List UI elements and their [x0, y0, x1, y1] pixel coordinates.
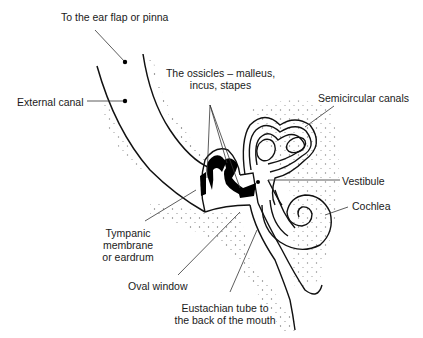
label-external-canal: External canal [17, 96, 84, 108]
label-ossicles-line2: incus, stapes [163, 79, 278, 91]
external-canal-dot [123, 99, 127, 103]
label-ossicles-line1: The ossicles – malleus, [163, 67, 278, 79]
ear-anatomy-diagram: To the ear flap or pinna External canal … [0, 0, 423, 338]
label-eustachian-line1: Eustachian tube to [165, 302, 285, 314]
oval-window-dot [256, 180, 260, 184]
label-pinna: To the ear flap or pinna [61, 11, 168, 23]
pinna-dot [123, 60, 127, 64]
label-oval-window: Oval window [128, 280, 188, 292]
label-tympanic-line3: or eardrum [100, 251, 156, 263]
label-tympanic-membrane: Tympanic membrane or eardrum [100, 227, 156, 263]
ear-drawing [0, 0, 423, 338]
label-semicircular-canals: Semicircular canals [318, 92, 409, 104]
ossicles [200, 155, 256, 198]
label-eustachian-tube: Eustachian tube to the back of the mouth [165, 302, 285, 326]
label-tympanic-line2: membrane [100, 239, 156, 251]
label-ossicles: The ossicles – malleus, incus, stapes [163, 67, 278, 91]
label-cochlea: Cochlea [352, 200, 391, 212]
label-vestibule: Vestibule [342, 175, 385, 187]
label-tympanic-line1: Tympanic [100, 227, 156, 239]
label-eustachian-line2: the back of the mouth [165, 314, 285, 326]
